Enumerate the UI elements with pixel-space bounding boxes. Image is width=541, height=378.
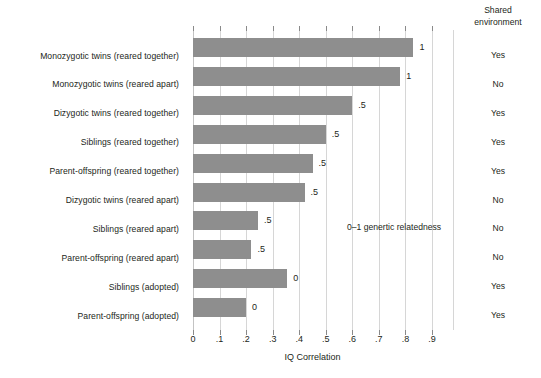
tick-top-.7 <box>379 26 380 31</box>
shared-environment-value-6: No <box>455 191 541 210</box>
x-tick-label-p7: .7 <box>375 334 383 344</box>
shared-environment-value-2: No <box>455 75 541 94</box>
shared-environment-value-9: Yes <box>455 277 541 296</box>
chart-annotation-1: 0–1 genertic relatedness <box>347 222 441 232</box>
category-label-4: Siblings (reared together) <box>81 137 179 147</box>
shared-environment-header-line1: Shared <box>455 5 541 17</box>
bar-row-6[interactable] <box>193 183 305 202</box>
category-label-1: Monozygotic twins (reared together) <box>40 51 179 61</box>
bar-value-label-1: 1 <box>419 38 424 57</box>
category-label-3: Dizygotic twins (reared together) <box>54 108 179 118</box>
shared-environment-header: Shared environment <box>455 5 541 28</box>
shared-environment-header-line2: environment <box>455 17 541 29</box>
bar-row-4[interactable] <box>193 125 326 144</box>
bar-value-label-5: .5 <box>319 154 327 173</box>
tick-top-.1 <box>220 26 221 31</box>
tick-top-.5 <box>326 26 327 31</box>
bar-value-label-9: 0 <box>293 269 298 288</box>
shared-environment-value-8: No <box>455 248 541 267</box>
bar-value-label-2: 1 <box>406 67 411 86</box>
category-label-5: Parent-offspring (reared together) <box>49 166 179 176</box>
x-tick-label-p4: .4 <box>295 334 303 344</box>
bar-row-10[interactable] <box>193 298 246 317</box>
x-tick-label-0: 0 <box>190 334 195 344</box>
x-tick-label-p9: .9 <box>428 334 436 344</box>
category-label-6: Dizygotic twins (reared apart) <box>66 195 179 205</box>
category-label-9: Siblings (adopted) <box>109 282 179 292</box>
bar-row-9[interactable] <box>193 269 287 288</box>
bar-value-label-10: 0 <box>252 298 257 317</box>
shared-environment-value-3: Yes <box>455 104 541 123</box>
shared-environment-value-10: Yes <box>455 306 541 325</box>
x-tick-label-p1: .1 <box>216 334 224 344</box>
x-tick-label-p6: .6 <box>349 334 357 344</box>
category-label-2: Monozygotic twins (reared apart) <box>52 79 179 89</box>
bar-row-1[interactable] <box>193 38 413 57</box>
bar-value-label-7: .5 <box>264 211 272 230</box>
bar-row-5[interactable] <box>193 154 313 173</box>
iq-correlation-chart: Monozygotic twins (reared together)Monoz… <box>0 0 541 378</box>
bar-row-2[interactable] <box>193 67 400 86</box>
shared-environment-value-4: Yes <box>455 133 541 152</box>
category-label-7: Siblings (reared apart) <box>93 224 179 234</box>
tick-top-.8 <box>405 26 406 31</box>
tick-top-.2 <box>246 26 247 31</box>
x-tick-label-p8: .8 <box>402 334 410 344</box>
x-axis-tick-labels: 0.1.2.3.4.5.6.7.8.9 <box>193 334 432 348</box>
bar-value-label-4: .5 <box>332 125 340 144</box>
bar-value-label-6: .5 <box>311 183 319 202</box>
bar-row-3[interactable] <box>193 96 352 115</box>
category-label-8: Parent-offspring (reared apart) <box>62 253 179 263</box>
x-tick-label-p5: .5 <box>322 334 330 344</box>
shared-environment-value-7: No <box>455 219 541 238</box>
x-axis-title: IQ Correlation <box>193 352 432 362</box>
tick-top-.9 <box>432 26 433 31</box>
x-tick-label-p2: .2 <box>242 334 250 344</box>
tick-top-.6 <box>352 26 353 31</box>
tick-top-0 <box>193 26 194 31</box>
shared-environment-value-1: Yes <box>455 46 541 65</box>
category-label-10: Parent-offspring (adopted) <box>78 311 179 321</box>
bar-value-label-3: .5 <box>358 96 366 115</box>
gridline-.9 <box>432 30 433 330</box>
bar-row-8[interactable] <box>193 240 251 259</box>
x-tick-label-p3: .3 <box>269 334 277 344</box>
tick-top-.4 <box>299 26 300 31</box>
plot-area: 11.5.5.5.5.5.5000–1 genertic relatedness <box>193 30 432 330</box>
bar-value-label-8: .5 <box>257 240 265 259</box>
shared-environment-divider <box>453 30 454 330</box>
bar-row-7[interactable] <box>193 211 258 230</box>
tick-top-.3 <box>273 26 274 31</box>
shared-environment-value-5: Yes <box>455 162 541 181</box>
